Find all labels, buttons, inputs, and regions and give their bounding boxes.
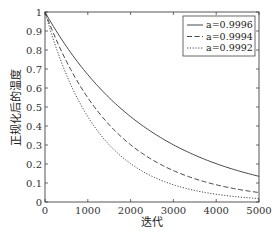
x-tick-label: 1000 <box>75 205 100 216</box>
y-tick-label: 0.2 <box>26 159 42 170</box>
x-tick-label: 4000 <box>203 205 228 216</box>
legend-label: a=0.9994 <box>206 31 253 42</box>
legend-label: a=0.9996 <box>206 19 253 30</box>
x-tick-label: 2000 <box>118 205 143 216</box>
y-tick-label: 0.9 <box>26 26 42 37</box>
x-axis-label: 迭代 <box>141 216 163 229</box>
y-tick-label: 0.3 <box>26 140 42 151</box>
y-tick-label: 1 <box>36 7 42 18</box>
y-tick-label: 0.6 <box>26 83 42 94</box>
y-tick-label: 0.7 <box>26 64 42 75</box>
legend-label: a=0.9992 <box>206 42 253 53</box>
y-tick-label: 0.4 <box>26 121 42 132</box>
y-tick-label: 0 <box>36 197 42 208</box>
y-axis-label: 正规化后的温度 <box>9 69 23 146</box>
y-tick-label: 0.5 <box>26 102 42 113</box>
y-tick-label: 0.8 <box>26 45 42 56</box>
x-tick-label: 3000 <box>161 205 186 216</box>
line-chart: 01000200030004000500000.10.20.30.40.50.6… <box>0 0 279 236</box>
y-tick-label: 0.1 <box>26 178 42 189</box>
x-tick-label: 0 <box>42 205 48 216</box>
x-tick-label: 5000 <box>246 205 271 216</box>
